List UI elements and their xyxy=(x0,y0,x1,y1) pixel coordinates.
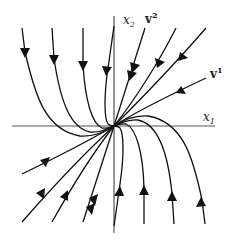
x2-axis-label: x2 xyxy=(123,13,135,29)
v1-label: v1 xyxy=(209,65,223,81)
phase-portrait: x2 v2 v1 x1 xyxy=(0,0,230,242)
trajectories-lower-left xyxy=(22,126,114,222)
x1-axis-label: x1 xyxy=(203,110,215,126)
trajectories-upper-left xyxy=(20,26,114,136)
v2-label: v2 xyxy=(144,10,158,26)
trajectories-upper-right xyxy=(114,28,206,126)
trajectories-lower-right xyxy=(114,116,206,226)
